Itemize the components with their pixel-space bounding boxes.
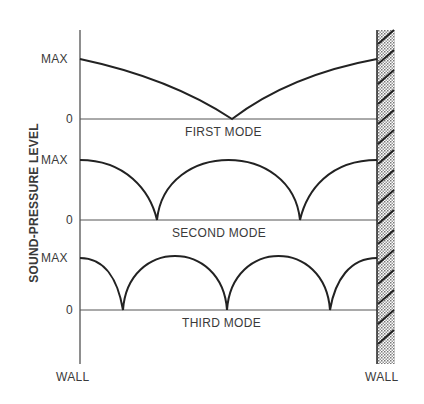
- third-mode-title: THIRD MODE: [182, 316, 261, 330]
- first-mode-title: FIRST MODE: [185, 125, 262, 139]
- y-axis-label: SOUND-PRESSURE LEVEL: [27, 113, 41, 293]
- third-mode-max-label: MAX: [41, 251, 68, 265]
- third-mode-curve: [80, 256, 377, 310]
- first-mode-zero-label: 0: [66, 112, 73, 126]
- right-wall: [377, 30, 395, 364]
- first-mode-max-label: MAX: [41, 52, 68, 66]
- second-mode-curve: [80, 160, 377, 220]
- first-mode-curve: [80, 59, 377, 119]
- second-mode-zero-label: 0: [66, 213, 73, 227]
- third-mode-zero-label: 0: [66, 303, 73, 317]
- right-wall-label: WALL: [365, 370, 398, 384]
- second-mode-title: SECOND MODE: [172, 226, 266, 240]
- left-wall-label: WALL: [56, 370, 89, 384]
- second-mode-max-label: MAX: [41, 153, 68, 167]
